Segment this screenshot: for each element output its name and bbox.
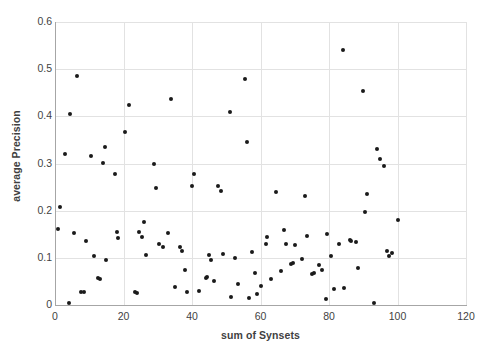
data-point	[269, 277, 273, 281]
data-point	[303, 194, 307, 198]
data-point	[382, 164, 386, 168]
data-point	[390, 251, 394, 255]
y-axis-line	[55, 22, 56, 306]
data-point	[75, 74, 79, 78]
data-point	[183, 268, 187, 272]
data-point	[116, 236, 120, 240]
data-point	[103, 145, 107, 149]
data-point	[356, 266, 360, 270]
data-point	[337, 242, 341, 246]
scatter-chart: 00.10.20.30.40.50.6 020406080100120 sum …	[0, 0, 491, 353]
data-point	[205, 275, 209, 279]
data-point	[58, 205, 62, 209]
data-point	[221, 252, 225, 256]
data-point	[72, 231, 76, 235]
data-points-layer	[55, 22, 466, 305]
data-point	[84, 239, 88, 243]
x-tick-label: 0	[35, 310, 75, 322]
x-tick-label: 120	[446, 310, 486, 322]
data-point	[123, 130, 127, 134]
data-point	[63, 152, 67, 156]
data-point	[104, 258, 108, 262]
data-point	[361, 89, 365, 93]
data-point	[284, 242, 288, 246]
data-point	[245, 140, 249, 144]
data-point	[279, 269, 283, 273]
y-tick-label: 0.1	[12, 252, 52, 263]
data-point	[365, 192, 369, 196]
data-point	[324, 297, 328, 301]
data-point	[265, 235, 269, 239]
data-point	[135, 291, 139, 295]
x-axis-title: sum of Synsets	[55, 329, 466, 341]
data-point	[216, 184, 220, 188]
data-point	[142, 220, 146, 224]
data-point	[68, 112, 72, 116]
data-point	[378, 157, 382, 161]
data-point	[190, 184, 194, 188]
data-point	[113, 172, 117, 176]
data-point	[197, 289, 201, 293]
data-point	[255, 292, 259, 296]
grid-line-vertical	[466, 22, 467, 305]
data-point	[152, 162, 156, 166]
data-point	[305, 234, 309, 238]
data-point	[247, 296, 251, 300]
data-point	[282, 228, 286, 232]
data-point	[137, 230, 141, 234]
data-point	[341, 48, 345, 52]
x-tick-label: 40	[172, 310, 212, 322]
data-point	[320, 268, 324, 272]
x-tick-label: 100	[378, 310, 418, 322]
data-point	[332, 287, 336, 291]
data-point	[291, 261, 295, 265]
data-point	[250, 250, 254, 254]
data-point	[209, 258, 213, 262]
y-axis-title: average Precision	[10, 86, 22, 226]
x-tick-label: 60	[241, 310, 281, 322]
data-point	[329, 254, 333, 258]
data-point	[264, 242, 268, 246]
data-point	[161, 245, 165, 249]
data-point	[349, 239, 353, 243]
data-point	[274, 190, 278, 194]
data-point	[317, 263, 321, 267]
data-point	[169, 97, 173, 101]
data-point	[207, 253, 211, 257]
data-point	[173, 285, 177, 289]
data-point	[212, 279, 216, 283]
data-point	[396, 218, 400, 222]
data-point	[293, 243, 297, 247]
y-tick-label: 0	[12, 299, 52, 310]
data-point	[101, 161, 105, 165]
data-point	[300, 257, 304, 261]
data-point	[229, 295, 233, 299]
x-tick-label: 80	[309, 310, 349, 322]
data-point	[180, 249, 184, 253]
data-point	[243, 77, 247, 81]
data-point	[154, 186, 158, 190]
data-point	[140, 235, 144, 239]
data-point	[253, 271, 257, 275]
data-point	[325, 232, 329, 236]
data-point	[259, 284, 263, 288]
data-point	[89, 154, 93, 158]
data-point	[144, 253, 148, 257]
data-point	[92, 254, 96, 258]
x-tick-label: 20	[104, 310, 144, 322]
data-point	[354, 240, 358, 244]
data-point	[228, 110, 232, 114]
data-point	[342, 286, 346, 290]
plot-area	[55, 22, 466, 305]
data-point	[385, 249, 389, 253]
data-point	[192, 172, 196, 176]
data-point	[115, 230, 119, 234]
data-point	[56, 227, 60, 231]
data-point	[236, 282, 240, 286]
data-point	[185, 290, 189, 294]
x-axis-line	[55, 305, 467, 306]
data-point	[375, 147, 379, 151]
data-point	[166, 231, 170, 235]
data-point	[233, 256, 237, 260]
y-tick-label: 0.5	[12, 63, 52, 74]
